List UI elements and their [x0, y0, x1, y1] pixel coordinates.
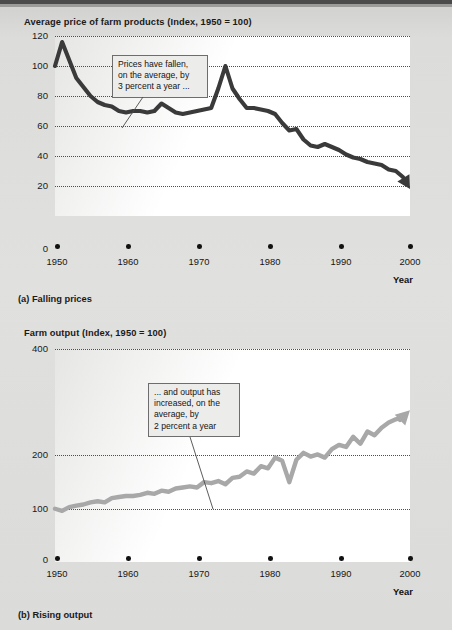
chart-a-xlabel-2000: 2000: [390, 256, 430, 267]
chart-a-xlabel-1950: 1950: [37, 256, 77, 267]
chart-a-xlabel-1990: 1990: [321, 256, 361, 267]
chart-b-caption: (b) Rising output: [18, 610, 92, 620]
page-background: Average price of farm products (Index, 1…: [0, 0, 452, 630]
chart-a-ytick-40: 40: [14, 150, 48, 161]
chart-a-xdot-2000: [408, 244, 413, 249]
chart-a-ytick-100: 100: [14, 60, 48, 71]
chart-a-ytick-80: 80: [14, 90, 48, 101]
chart-b-title: Farm output (Index, 1950 = 100): [24, 328, 166, 338]
chart-b-xlabel-1970: 1970: [179, 568, 219, 579]
chart-a-x-axis-name: Year: [393, 274, 413, 285]
chart-b-series-svg: [55, 349, 410, 562]
chart-a-ytick-120: 120: [14, 30, 48, 41]
chart-a-series-svg: [55, 36, 410, 216]
chart-b-xlabel-1960: 1960: [108, 568, 148, 579]
chart-a-xdot-1990: [339, 244, 344, 249]
chart-b-ytick-400: 400: [14, 343, 48, 354]
chart-a-ytick-60: 60: [14, 120, 48, 131]
chart-a-xdot-1970: [197, 244, 202, 249]
chart-a-ytick-20: 20: [14, 180, 48, 191]
chart-b-xdot-2000: [408, 556, 413, 561]
chart-b-xlabel-1990: 1990: [321, 568, 361, 579]
chart-a-xlabel-1970: 1970: [179, 256, 219, 267]
chart-b-x-axis-name: Year: [393, 586, 413, 597]
chart-b-plot-area: [55, 349, 410, 562]
chart-b-xdot-1980: [268, 556, 273, 561]
chart-a-title: Average price of farm products (Index, 1…: [24, 17, 252, 27]
chart-a-ytick-0: 0: [14, 243, 48, 254]
chart-a-xdot-1960: [126, 244, 131, 249]
chart-b-callout: ... and output has increased, on the ave…: [148, 383, 240, 437]
chart-a-xlabel-1960: 1960: [108, 256, 148, 267]
chart-b-xdot-1950: [55, 556, 60, 561]
chart-a-plot-area: [55, 36, 410, 216]
chart-b-xdot-1990: [339, 556, 344, 561]
chart-b-xlabel-2000: 2000: [390, 568, 430, 579]
chart-b-xlabel-1980: 1980: [250, 568, 290, 579]
chart-b-xdot-1970: [197, 556, 202, 561]
chart-b-ytick-100: 100: [14, 503, 48, 514]
chart-b-ytick-200: 200: [14, 449, 48, 460]
chart-a-xdot-1950: [55, 244, 60, 249]
chart-b-xdot-1960: [126, 556, 131, 561]
chart-a-caption: (a) Falling prices: [18, 294, 92, 304]
chart-a-callout: Prices have fallen, on the average, by 3…: [112, 55, 208, 98]
chart-a-xdot-1980: [268, 244, 273, 249]
chart-a-xlabel-1980: 1980: [250, 256, 290, 267]
chart-b-block: Farm output (Index, 1950 = 100) 400 200 …: [0, 310, 452, 630]
chart-a-block: Average price of farm products (Index, 1…: [0, 0, 452, 310]
chart-b-xlabel-1950: 1950: [37, 568, 77, 579]
chart-b-ytick-0: 0: [14, 554, 48, 565]
